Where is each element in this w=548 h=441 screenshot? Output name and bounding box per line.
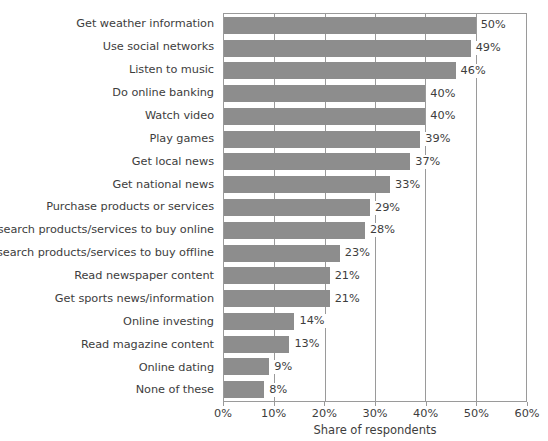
bar[interactable] bbox=[224, 222, 365, 239]
bar[interactable] bbox=[224, 358, 269, 375]
bar[interactable] bbox=[224, 199, 370, 216]
bar-value-label: 21% bbox=[334, 292, 362, 306]
bar-value-label: 50% bbox=[480, 18, 508, 32]
bar[interactable] bbox=[224, 108, 425, 125]
bar[interactable] bbox=[224, 85, 425, 102]
bar-row[interactable]: 40% bbox=[224, 82, 526, 105]
bar[interactable] bbox=[224, 131, 420, 148]
bar-row[interactable]: 29% bbox=[224, 196, 526, 219]
bar-row[interactable]: 33% bbox=[224, 173, 526, 196]
category-label: Listen to music bbox=[129, 64, 214, 76]
x-axis-tick-label: 0% bbox=[214, 407, 232, 420]
x-axis-tick-label: 20% bbox=[312, 407, 337, 420]
category-axis-labels: Get weather informationUse social networ… bbox=[0, 13, 219, 402]
x-axis-title: Share of respondents bbox=[223, 423, 527, 437]
bar-value-label: 14% bbox=[298, 314, 326, 328]
bar[interactable] bbox=[224, 176, 390, 193]
bar-row[interactable]: 9% bbox=[224, 355, 526, 378]
bar-row[interactable]: 37% bbox=[224, 151, 526, 174]
x-axis-tick-label: 40% bbox=[413, 407, 438, 420]
x-axis-tick-label: 50% bbox=[464, 407, 489, 420]
category-label: Purchase products or services bbox=[46, 201, 214, 213]
category-label: Watch video bbox=[145, 110, 214, 122]
bar[interactable] bbox=[224, 290, 330, 307]
bar-value-label: 37% bbox=[414, 155, 442, 169]
category-label-row: Purchase products or services bbox=[0, 196, 219, 219]
bar-value-label: 39% bbox=[424, 132, 452, 146]
bar-row[interactable]: 21% bbox=[224, 287, 526, 310]
category-label: Use social networks bbox=[103, 41, 214, 53]
category-label: Get local news bbox=[132, 156, 214, 168]
category-label-row: Read magazine content bbox=[0, 333, 219, 356]
category-label: Online investing bbox=[123, 316, 214, 328]
bar-row[interactable]: 46% bbox=[224, 60, 526, 83]
category-label: Do online banking bbox=[112, 87, 214, 99]
category-label: Play games bbox=[149, 133, 214, 145]
x-axis: 0%10%20%30%40%50%60% bbox=[223, 402, 527, 422]
category-label-row: Online dating bbox=[0, 356, 219, 379]
category-label-row: Use social networks bbox=[0, 36, 219, 59]
x-axis-tick bbox=[375, 402, 376, 406]
bar-value-label: 8% bbox=[268, 383, 289, 397]
bar[interactable] bbox=[224, 267, 330, 284]
x-axis-tick bbox=[324, 402, 325, 406]
bar-value-label: 9% bbox=[273, 360, 294, 374]
x-axis-tick bbox=[426, 402, 427, 406]
bar-value-label: 28% bbox=[369, 223, 397, 237]
x-axis-tick bbox=[223, 402, 224, 406]
category-label: Read magazine content bbox=[81, 339, 214, 351]
category-label: Read newspaper content bbox=[74, 270, 214, 282]
bar-value-label: 40% bbox=[429, 109, 457, 123]
bar-value-label: 23% bbox=[344, 246, 372, 260]
bar-value-label: 21% bbox=[334, 269, 362, 283]
category-label: Get weather information bbox=[76, 18, 214, 30]
bar[interactable] bbox=[224, 245, 340, 262]
category-label-row: Get weather information bbox=[0, 13, 219, 36]
category-label-row: Read newspaper content bbox=[0, 265, 219, 288]
bar-row[interactable]: 13% bbox=[224, 333, 526, 356]
category-label-row: Get local news bbox=[0, 150, 219, 173]
bar[interactable] bbox=[224, 381, 264, 398]
x-axis-tick-label: 30% bbox=[362, 407, 387, 420]
category-label: Research products/services to buy offlin… bbox=[0, 247, 214, 259]
bar[interactable] bbox=[224, 153, 410, 170]
category-label-row: Watch video bbox=[0, 105, 219, 128]
x-axis-tick bbox=[274, 402, 275, 406]
category-label-row: Online investing bbox=[0, 310, 219, 333]
bar-value-label: 49% bbox=[475, 41, 503, 55]
category-label-row: Get national news bbox=[0, 173, 219, 196]
bar-row[interactable]: 49% bbox=[224, 37, 526, 60]
bar-chart: Get weather informationUse social networ… bbox=[0, 0, 548, 441]
bar-value-label: 46% bbox=[460, 64, 488, 78]
category-label-row: Do online banking bbox=[0, 82, 219, 105]
bar[interactable] bbox=[224, 336, 289, 353]
bar-row[interactable]: 28% bbox=[224, 219, 526, 242]
bar-value-label: 13% bbox=[293, 337, 321, 351]
bar-row[interactable]: 21% bbox=[224, 264, 526, 287]
category-label-row: None of these bbox=[0, 379, 219, 402]
bar-row[interactable]: 40% bbox=[224, 105, 526, 128]
x-axis-tick-label: 60% bbox=[514, 407, 539, 420]
bar[interactable] bbox=[224, 17, 476, 34]
category-label-row: Play games bbox=[0, 127, 219, 150]
bar[interactable] bbox=[224, 62, 456, 79]
category-label: Get sports news/information bbox=[55, 293, 214, 305]
bar-row[interactable]: 8% bbox=[224, 378, 526, 401]
bar[interactable] bbox=[224, 40, 471, 57]
x-axis-tick bbox=[476, 402, 477, 406]
bar-series: 50%49%46%40%40%39%37%33%29%28%23%21%21%1… bbox=[224, 14, 526, 401]
category-label-row: Listen to music bbox=[0, 59, 219, 82]
category-label: Online dating bbox=[139, 362, 214, 374]
x-axis-tick-label: 10% bbox=[261, 407, 286, 420]
bar-row[interactable]: 23% bbox=[224, 242, 526, 265]
bar-row[interactable]: 50% bbox=[224, 14, 526, 37]
category-label-row: Get sports news/information bbox=[0, 288, 219, 311]
bar-row[interactable]: 39% bbox=[224, 128, 526, 151]
bar[interactable] bbox=[224, 313, 294, 330]
bar-row[interactable]: 14% bbox=[224, 310, 526, 333]
bar-value-label: 29% bbox=[374, 201, 402, 215]
category-label-row: Research products/services to buy online bbox=[0, 219, 219, 242]
category-label: Get national news bbox=[113, 179, 214, 191]
category-label: None of these bbox=[136, 384, 214, 396]
bar-value-label: 40% bbox=[429, 87, 457, 101]
